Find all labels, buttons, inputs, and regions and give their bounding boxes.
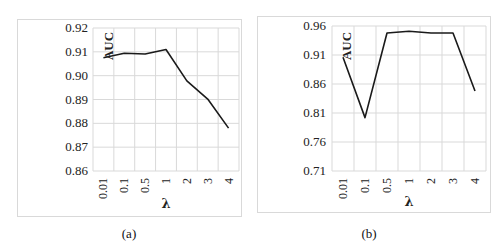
y-tick-label: 0.96 xyxy=(303,18,326,33)
x-tick-label: 0.01 xyxy=(96,178,110,199)
y-tick-label: 0.90 xyxy=(65,68,88,83)
x-tick-label: 4 xyxy=(222,178,236,184)
y-tick-label: 0.89 xyxy=(65,92,88,107)
x-tick-label: 3 xyxy=(201,178,215,184)
x-tick-label: 1 xyxy=(402,178,416,184)
y-tick-label: 0.81 xyxy=(303,105,326,120)
x-tick-label: 0.5 xyxy=(138,178,152,193)
x-tick-label: 1 xyxy=(159,178,173,184)
y-tick-label: 0.87 xyxy=(65,139,88,154)
y-tick-label: 0.91 xyxy=(303,47,326,62)
y-tick-label: 0.88 xyxy=(65,115,88,130)
series-line-auc xyxy=(343,31,475,117)
charts-svg: 0.860.870.880.890.900.910.920.010.10.512… xyxy=(0,0,496,251)
x-tick-label: 0.01 xyxy=(336,178,350,199)
y-tick-label: 0.86 xyxy=(303,76,326,91)
y-axis-label: AUC xyxy=(339,32,354,60)
x-tick-label: 0.1 xyxy=(358,178,372,193)
series-line-auc xyxy=(103,49,228,128)
y-tick-label: 0.71 xyxy=(303,163,326,178)
x-tick-label: 0.5 xyxy=(380,178,394,193)
y-tick-label: 0.92 xyxy=(65,20,88,35)
x-axis-label: λ xyxy=(404,194,413,209)
y-tick-label: 0.76 xyxy=(303,134,326,149)
x-tick-label: 4 xyxy=(468,178,482,184)
y-tick-label: 0.86 xyxy=(65,163,88,178)
caption-b: (b) xyxy=(339,226,399,242)
x-tick-label: 3 xyxy=(446,178,460,184)
x-tick-label: 2 xyxy=(424,178,438,184)
caption-a: (a) xyxy=(99,226,159,242)
x-tick-label: 2 xyxy=(180,178,194,184)
x-axis-label: λ xyxy=(161,196,170,211)
y-tick-label: 0.91 xyxy=(65,44,88,59)
x-tick-label: 0.1 xyxy=(117,178,131,193)
